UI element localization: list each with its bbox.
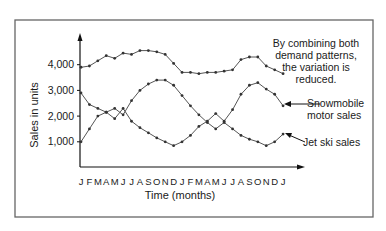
data-point-marker	[130, 53, 133, 56]
data-point-marker	[80, 92, 83, 95]
data-point-marker	[80, 140, 83, 143]
x-tick-label: F	[188, 176, 194, 187]
data-point-marker	[96, 59, 99, 62]
data-point-marker	[256, 140, 259, 143]
y-axis-label: Sales in units	[28, 82, 40, 148]
data-point-marker	[88, 65, 91, 68]
series-snowmobile-motor-sales	[80, 81, 285, 147]
data-point-marker	[273, 93, 276, 96]
variation-note: By combining both demand patterns, the v…	[273, 37, 360, 85]
x-tick-label: S	[246, 176, 252, 187]
data-point-marker	[248, 56, 251, 59]
data-point-marker	[130, 99, 133, 102]
x-tick-label: A	[238, 176, 245, 187]
x-tick-label: M	[94, 176, 102, 187]
data-point-marker	[122, 52, 125, 55]
data-point-marker	[122, 113, 125, 116]
y-tick-label: 1,000	[48, 135, 74, 147]
snowmobile-annotation: Snowmobile motor sales	[284, 97, 364, 121]
axes	[78, 33, 306, 170]
data-point-marker	[96, 115, 99, 118]
jetski-annotation: Jet ski sales	[285, 133, 360, 148]
data-point-marker	[105, 54, 108, 57]
data-point-marker	[88, 128, 91, 131]
line-chart: 1,0002,0003,0004,000 JFMAMJJASONDJFMAMJJ…	[0, 0, 386, 231]
series-combined-demand	[80, 49, 285, 75]
note-line-2: demand patterns,	[275, 49, 357, 61]
data-point-marker	[122, 107, 125, 110]
data-point-marker	[164, 53, 167, 56]
x-tick-label: J	[79, 176, 84, 187]
x-tick-label: D	[271, 176, 278, 187]
snowmobile-label-2: motor sales	[307, 109, 361, 121]
data-point-marker	[155, 79, 158, 82]
data-point-marker	[139, 49, 142, 52]
data-point-marker	[139, 126, 142, 129]
note-line-4: reduced.	[296, 73, 337, 85]
data-point-marker	[139, 89, 142, 92]
x-tick-label: O	[254, 176, 261, 187]
data-point-marker	[164, 79, 167, 82]
x-tick-labels: JFMAMJJASONDJFMAMJJASONDJ	[79, 176, 286, 187]
data-point-marker	[248, 84, 251, 87]
data-point-marker	[197, 125, 200, 128]
x-tick-label: J	[281, 176, 286, 187]
y-axis-arrow-icon	[78, 33, 83, 41]
data-point-marker	[197, 72, 200, 75]
data-point-marker	[231, 68, 234, 71]
x-tick-label: J	[230, 176, 235, 187]
data-point-marker	[223, 70, 226, 73]
data-point-marker	[240, 134, 243, 137]
x-tick-label: D	[170, 176, 177, 187]
data-point-marker	[80, 66, 83, 69]
data-point-marker	[105, 111, 108, 114]
x-tick-label: N	[162, 176, 169, 187]
x-tick-label: S	[145, 176, 151, 187]
x-tick-label: M	[195, 176, 203, 187]
series-line	[81, 80, 283, 146]
snowmobile-label-1: Snowmobile	[307, 97, 364, 109]
data-point-marker	[265, 144, 268, 147]
data-point-marker	[189, 134, 192, 137]
data-point-marker	[214, 71, 217, 74]
data-point-marker	[231, 128, 234, 131]
data-point-marker	[164, 140, 167, 143]
y-ticks: 1,0002,0003,0004,000	[48, 58, 80, 147]
data-point-marker	[172, 62, 175, 65]
data-point-marker	[214, 112, 217, 115]
x-tick-label: M	[111, 176, 119, 187]
x-tick-label: J	[129, 176, 134, 187]
chart-container: 1,0002,0003,0004,000 JFMAMJJASONDJFMAMJJ…	[0, 0, 386, 231]
x-axis-label: Time (months)	[145, 189, 216, 201]
data-point-marker	[189, 71, 192, 74]
data-point-marker	[147, 83, 150, 86]
x-tick-label: N	[263, 176, 270, 187]
x-tick-label: M	[212, 176, 220, 187]
x-tick-label: A	[137, 176, 144, 187]
data-point-marker	[172, 84, 175, 87]
series-jet-ski-sales	[80, 79, 285, 147]
x-tick-label: J	[222, 176, 227, 187]
x-axis-arrow-icon	[297, 165, 305, 170]
x-tick-label: J	[121, 176, 126, 187]
data-point-marker	[282, 133, 285, 136]
x-tick-label: F	[87, 176, 93, 187]
data-point-marker	[223, 121, 226, 124]
x-tick-label: A	[103, 176, 110, 187]
y-tick-label: 2,000	[48, 110, 74, 122]
data-point-marker	[181, 71, 184, 74]
data-point-marker	[206, 121, 209, 124]
data-point-marker	[113, 117, 116, 120]
data-point-marker	[96, 107, 99, 110]
data-point-marker	[273, 68, 276, 71]
x-tick-label: J	[180, 176, 185, 187]
data-point-marker	[256, 56, 259, 59]
data-point-marker	[265, 88, 268, 91]
data-point-marker	[214, 128, 217, 131]
data-point-marker	[231, 108, 234, 111]
data-point-marker	[282, 104, 285, 107]
data-point-marker	[197, 113, 200, 116]
y-tick-label: 4,000	[48, 58, 74, 70]
data-point-marker	[240, 58, 243, 61]
y-tick-label: 3,000	[48, 84, 74, 96]
